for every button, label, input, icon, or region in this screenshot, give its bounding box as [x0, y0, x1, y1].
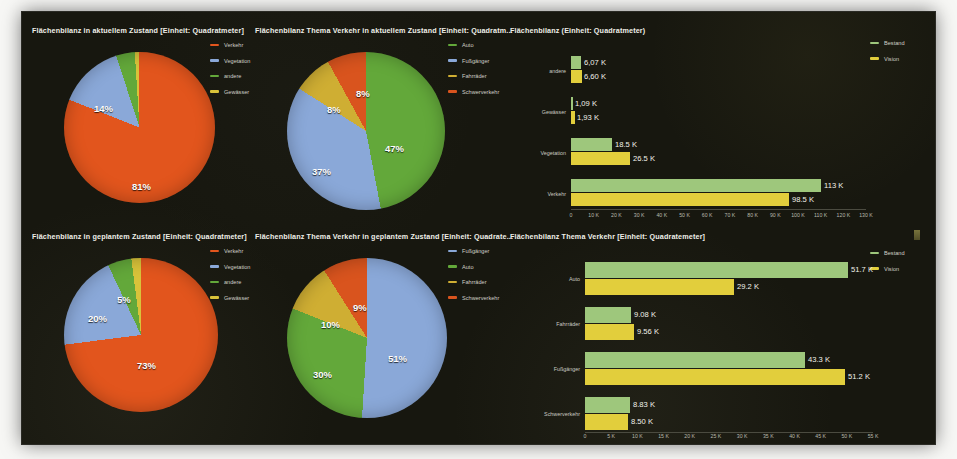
legend-item[interactable]: Fahrräder	[448, 279, 499, 285]
legend-label: Vision	[884, 56, 899, 62]
bar-bestand[interactable]	[585, 262, 848, 278]
bar-bestand[interactable]	[585, 307, 631, 323]
panel-title-bar-top-right: Flächenbilanz (Einheit: Quadratmeter)	[510, 26, 930, 35]
panel-title-pie-top-center: Flächenbilanz Thema Verkehr in aktuellem…	[255, 26, 517, 35]
x-axis-tick: 50 K	[679, 212, 690, 218]
bar-vision[interactable]	[571, 111, 575, 124]
legend-item[interactable]: Verkehr	[210, 248, 250, 254]
pie-slice-label: 10%	[321, 319, 340, 330]
decorative-glint-icon	[914, 230, 920, 240]
legend-item[interactable]: Verkehr	[210, 42, 250, 48]
legend-swatch-vision-icon	[870, 57, 879, 60]
x-axis-tick: 0	[570, 212, 573, 218]
bar-bestand[interactable]	[571, 179, 821, 192]
bar-value-label: 6,60 K	[584, 72, 606, 81]
legend-item[interactable]: andere	[210, 279, 250, 285]
legend-item[interactable]: Fahrräder	[448, 73, 499, 79]
bar-vision[interactable]	[585, 369, 845, 385]
panel-title-pie-top-left: Flächenbilanz in aktuellem Zustand [Einh…	[32, 26, 272, 35]
legend-swatch-verkehr-icon	[210, 44, 219, 47]
bar-bestand[interactable]	[585, 397, 630, 413]
pie-slice-label: 37%	[312, 166, 331, 177]
legend-swatch-gewaesser-icon	[210, 296, 219, 299]
legend-item[interactable]: Gewässer	[210, 295, 250, 301]
x-axis-tick: 70 K	[725, 212, 736, 218]
bar-vision[interactable]	[585, 279, 734, 295]
bar-value-label: 98.5 K	[792, 195, 814, 204]
bar-vision[interactable]	[571, 152, 630, 165]
bar-bestand[interactable]	[585, 352, 805, 368]
legend-label: Auto	[462, 42, 474, 48]
bar-vision[interactable]	[571, 70, 582, 83]
bar-value-label: 51.2 K	[848, 372, 870, 381]
pie-slice-label: 8%	[327, 104, 341, 115]
bar-value-label: 26.5 K	[633, 154, 655, 163]
legend-label: Verkehr	[224, 248, 243, 254]
legend-swatch-bestand-icon	[870, 42, 879, 45]
legend-label: Bestand	[884, 40, 905, 46]
legend-item[interactable]: Bestand	[870, 250, 905, 256]
legend-item[interactable]: Gewässer	[210, 89, 250, 95]
bar-vision[interactable]	[571, 193, 789, 206]
legend-label: Fußgänger	[462, 248, 489, 254]
legend-label: Verkehr	[224, 42, 243, 48]
legend-label: Gewässer	[224, 89, 249, 95]
panel-pie-top-left: Flächenbilanz in aktuellem Zustand [Einh…	[32, 26, 272, 226]
bar-value-label: 1,93 K	[577, 113, 599, 122]
x-axis-tick: 20 K	[611, 212, 622, 218]
legend-swatch-fussgaenger-icon	[448, 59, 457, 62]
pie-chart-bottom-center[interactable]	[287, 258, 447, 418]
legend-item[interactable]: Vision	[870, 266, 905, 272]
legend-swatch-auto-icon	[448, 265, 457, 268]
legend-swatch-vegetation-icon	[210, 59, 219, 62]
legend-item[interactable]: Bestand	[870, 40, 905, 46]
pie-slice-label: 9%	[353, 302, 367, 313]
legend-swatch-andere-icon	[210, 281, 219, 284]
pie-slice-label: 73%	[137, 360, 156, 371]
panel-title-pie-bottom-center: Flächenbilanz Thema Verkehr in geplantem…	[255, 232, 517, 241]
legend-item[interactable]: Vision	[870, 56, 905, 62]
legend-swatch-fahrraeder-icon	[448, 281, 457, 284]
legend-item[interactable]: Schwerverkehr	[448, 89, 499, 95]
legend-bar-top-right: Bestand Vision	[870, 40, 905, 71]
bar-bestand[interactable]	[571, 138, 612, 151]
legend-swatch-verkehr-icon	[210, 250, 219, 253]
pie-slice-label: 47%	[385, 143, 404, 154]
legend-item[interactable]: andere	[210, 73, 250, 79]
bar-bestand[interactable]	[571, 56, 581, 69]
legend-item[interactable]: Vegetation	[210, 264, 250, 270]
legend-item[interactable]: Fußgänger	[448, 58, 499, 64]
pie-chart-top-center[interactable]	[287, 52, 445, 210]
legend-swatch-schwerverkehr-icon	[448, 296, 457, 299]
x-axis-line	[585, 432, 873, 433]
pie-chart-bottom-left[interactable]	[64, 258, 218, 412]
legend-swatch-schwerverkehr-icon	[448, 90, 457, 93]
x-axis-tick: 45 K	[815, 433, 826, 439]
bar-vision[interactable]	[585, 414, 628, 430]
bar-category-label: Fußgänger	[510, 366, 580, 372]
pie-slice-label: 5%	[117, 294, 131, 305]
legend-item[interactable]: Schwerverkehr	[448, 295, 499, 301]
x-axis-tick: 40 K	[656, 212, 667, 218]
bar-bestand[interactable]	[571, 97, 573, 110]
x-axis-tick: 130 K	[859, 212, 873, 218]
legend-item[interactable]: Auto	[448, 42, 499, 48]
bar-value-label: 51.7 K	[851, 265, 873, 274]
bar-category-label: Verkehr	[510, 191, 566, 197]
legend-item[interactable]: Auto	[448, 264, 499, 270]
panel-pie-bottom-left: Flächenbilanz in geplantem Zustand [Einh…	[32, 232, 272, 432]
x-axis-tick: 90 K	[770, 212, 781, 218]
pie-slice-label: 30%	[313, 369, 332, 380]
bar-value-label: 29.2 K	[737, 282, 759, 291]
dashboard-dark-panel: Flächenbilanz in aktuellem Zustand [Einh…	[22, 12, 935, 444]
panel-title-bar-bottom-right: Flächenbilanz Thema Verkehr [Einheit: Qu…	[510, 232, 930, 241]
bar-vision[interactable]	[585, 324, 634, 340]
x-axis-tick: 50 K	[841, 433, 852, 439]
bar-category-label: Fahrräder	[510, 321, 580, 327]
legend-swatch-auto-icon	[448, 44, 457, 47]
x-axis-line	[571, 209, 866, 210]
legend-label: Auto	[462, 264, 474, 270]
legend-bar-bottom-right: Bestand Vision	[870, 250, 905, 281]
legend-item[interactable]: Vegetation	[210, 58, 250, 64]
legend-item[interactable]: Fußgänger	[448, 248, 499, 254]
